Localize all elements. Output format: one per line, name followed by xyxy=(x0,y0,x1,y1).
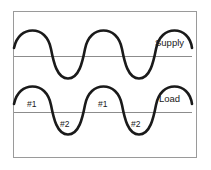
supply-series-label: Supply xyxy=(155,37,184,48)
load-series-label: Load xyxy=(159,93,180,104)
waveform-svg-canvas: Supply #1 #2 #1 #2 Load xyxy=(0,0,211,170)
load-cycle-label-2b: #2 xyxy=(131,119,141,129)
waveform-diagram: Supply #1 #2 #1 #2 Load xyxy=(0,0,211,170)
load-cycle-label-1a: #1 xyxy=(27,99,37,109)
load-cycle-label-1b: #1 xyxy=(98,99,108,109)
load-cycle-label-2a: #2 xyxy=(60,119,70,129)
